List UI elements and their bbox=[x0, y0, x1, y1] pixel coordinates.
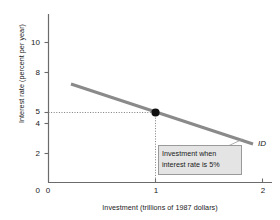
callout-text: Investment when interest rate is 5% bbox=[162, 149, 240, 170]
y-tick-label-5: 5 bbox=[26, 107, 40, 116]
investment-demand-chart: Interest rate (percent per year) Investm… bbox=[0, 0, 280, 220]
data-point-marker bbox=[151, 108, 159, 116]
callout-text-line-2: interest rate is 5% bbox=[162, 160, 240, 171]
x-tick-label-1: 1 bbox=[149, 186, 163, 195]
y-tick-label-8: 8 bbox=[26, 68, 40, 77]
y-tick-label-4: 4 bbox=[26, 119, 40, 128]
y-axis-title: Interest rate (percent per year) bbox=[17, 9, 26, 139]
y-tick-label-0: 0 bbox=[26, 186, 40, 195]
y-tick-label-10: 10 bbox=[26, 38, 40, 47]
callout-text-line-1: Investment when bbox=[162, 149, 240, 160]
investment-demand-curve bbox=[71, 84, 253, 144]
x-tick-label-0: 0 bbox=[41, 186, 55, 195]
curve-label-id: ID bbox=[258, 139, 266, 148]
x-tick-label-2: 2 bbox=[256, 186, 270, 195]
x-axis-title: Investment (trillions of 1987 dollars) bbox=[48, 203, 272, 212]
y-tick-label-2: 2 bbox=[26, 149, 40, 158]
